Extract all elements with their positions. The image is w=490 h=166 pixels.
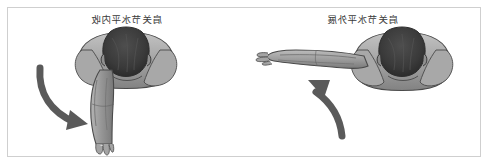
shoulder-horizontal-abduction-drawing — [244, 8, 480, 156]
torso-top-view — [351, 27, 453, 91]
panel-right: 肩关节水平外展 — [244, 8, 480, 156]
panel-left-illustration — [8, 8, 244, 156]
curved-arrow-up-left — [308, 80, 342, 136]
shoulder-horizontal-adduction-drawing — [8, 8, 244, 156]
panel-left: 肩关节水平内收 — [8, 8, 244, 156]
panel-right-illustration — [244, 8, 480, 156]
arm-extended-horizontal — [256, 50, 368, 68]
torso-top-view — [75, 27, 177, 89]
figure-root: 肩关节水平内收 — [0, 0, 490, 166]
arm-hanging-down — [91, 70, 114, 155]
